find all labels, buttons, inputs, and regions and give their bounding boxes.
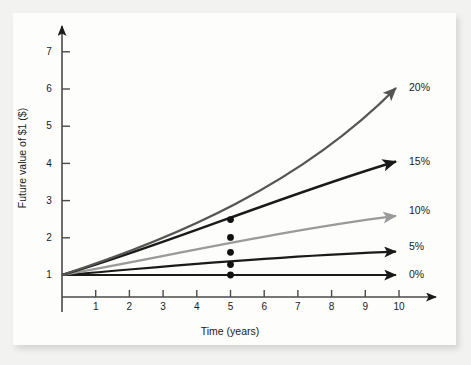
y-tick-label-6: 6 bbox=[42, 83, 56, 94]
marker-15pct-year5 bbox=[227, 234, 234, 241]
x-tick-label-8: 8 bbox=[322, 301, 342, 312]
y-tick-label-2: 2 bbox=[42, 232, 56, 243]
x-tick-label-6: 6 bbox=[254, 301, 274, 312]
marker-0pct-year5 bbox=[227, 272, 234, 279]
y-tick-label-7: 7 bbox=[42, 46, 56, 57]
series-label-10pct: 10% bbox=[409, 205, 430, 216]
y-tick-label-3: 3 bbox=[42, 195, 56, 206]
x-tick-label-10: 10 bbox=[389, 301, 409, 312]
x-tick-label-9: 9 bbox=[355, 301, 375, 312]
y-axis-title: Future value of $1 ($) bbox=[16, 93, 28, 223]
series-label-0pct: 0% bbox=[409, 269, 424, 280]
y-tick-label-4: 4 bbox=[42, 158, 56, 169]
series-label-20pct: 20% bbox=[409, 82, 430, 93]
y-tick-label-5: 5 bbox=[42, 120, 56, 131]
marker-20pct-year5 bbox=[227, 216, 234, 223]
x-tick-label-4: 4 bbox=[187, 301, 207, 312]
x-tick-label-1: 1 bbox=[86, 301, 106, 312]
x-tick-label-7: 7 bbox=[288, 301, 308, 312]
series-line-20pct bbox=[62, 88, 396, 275]
marker-5pct-year5 bbox=[227, 261, 234, 268]
figure-container: 1 2 3 4 5 6 7 1 2 3 4 5 6 7 8 9 10 Futur… bbox=[0, 0, 471, 365]
marker-10pct-year5 bbox=[227, 249, 234, 256]
x-tick-label-5: 5 bbox=[221, 301, 241, 312]
series-label-5pct: 5% bbox=[409, 241, 424, 252]
series-label-15pct: 15% bbox=[409, 156, 430, 167]
y-axis bbox=[62, 26, 70, 312]
x-tick-label-2: 2 bbox=[119, 301, 139, 312]
x-axis bbox=[62, 290, 436, 297]
y-tick-label-1: 1 bbox=[42, 269, 56, 280]
x-axis-title: Time (years) bbox=[150, 325, 310, 337]
x-tick-label-3: 3 bbox=[153, 301, 173, 312]
year5-markers bbox=[227, 216, 234, 278]
